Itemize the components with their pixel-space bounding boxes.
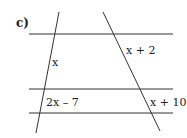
label-left-upper: x [52,57,58,68]
left-transversal [36,12,59,133]
part-label: c) [16,17,29,29]
label-left-lower: 2x – 7 [46,97,79,108]
label-right-lower: x + 10 [150,97,186,108]
label-right-upper: x + 2 [126,45,155,56]
